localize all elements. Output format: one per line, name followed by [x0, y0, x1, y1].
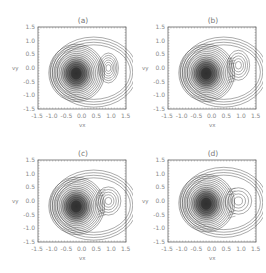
x-tick-label: -1.5 [161, 113, 173, 119]
x-axis-label: vx [79, 122, 86, 128]
x-tick-label: 1.5 [251, 246, 261, 252]
x-tick-label: 1.0 [106, 113, 116, 119]
y-tick-label: 1.5 [21, 157, 35, 163]
x-tick-label: -1.5 [161, 246, 173, 252]
y-tick-label: 0.5 [21, 51, 35, 57]
x-tick-label: -0.5 [191, 246, 203, 252]
x-tick-label: -1.0 [176, 246, 188, 252]
y-tick-label: -0.5 [21, 79, 35, 85]
y-tick-label: 1.0 [21, 171, 35, 177]
x-tick-label: 0.0 [207, 113, 217, 119]
y-tick-label: -1.0 [21, 225, 35, 231]
panel-b: (b) 1.51.00.50.0-0.5-1.0-1.5-1.5-1.0-0.5… [130, 0, 263, 136]
x-tick-label: -1.5 [31, 113, 43, 119]
x-tick-label: 1.0 [236, 113, 246, 119]
y-tick-label: 0.0 [21, 65, 35, 71]
x-tick-label: 0.0 [77, 246, 87, 252]
x-tick-label: -1.5 [31, 246, 43, 252]
y-tick-label: 1.0 [151, 171, 165, 177]
x-tick-label: 1.5 [121, 113, 131, 119]
y-tick-label: 1.5 [151, 157, 165, 163]
x-tick-label: 1.0 [106, 246, 116, 252]
x-tick-label: 0.0 [207, 246, 217, 252]
y-tick-label: 1.0 [21, 38, 35, 44]
y-tick-label: 0.0 [151, 198, 165, 204]
y-axis-label: vy [142, 198, 149, 204]
y-tick-label: 0.0 [151, 65, 165, 71]
x-tick-label: -1.0 [46, 246, 58, 252]
y-tick-label: -1.0 [21, 92, 35, 98]
x-tick-label: 0.5 [92, 246, 102, 252]
y-tick-label: 1.5 [151, 24, 165, 30]
y-tick-label: 0.0 [21, 198, 35, 204]
x-tick-label: 1.5 [121, 246, 131, 252]
x-tick-label: 0.5 [222, 113, 232, 119]
x-axis-label: vx [209, 255, 216, 261]
x-tick-label: 0.5 [222, 246, 232, 252]
x-tick-label: 1.0 [236, 246, 246, 252]
x-tick-label: 0.0 [77, 113, 87, 119]
x-tick-label: -0.5 [61, 113, 73, 119]
panel-a: (a) 1.51.00.50.0-0.5-1.0-1.5-1.5-1.0-0.5… [0, 0, 133, 136]
panel-c: (c) 1.51.00.50.0-0.5-1.0-1.5-1.5-1.0-0.5… [0, 133, 133, 269]
y-tick-label: 0.5 [151, 51, 165, 57]
y-tick-label: 0.5 [151, 184, 165, 190]
y-tick-label: -1.0 [151, 92, 165, 98]
y-tick-label: 1.5 [21, 24, 35, 30]
x-tick-label: -0.5 [61, 246, 73, 252]
panel-d: (d) 1.51.00.50.0-0.5-1.0-1.5-1.5-1.0-0.5… [130, 133, 263, 269]
y-tick-label: 1.0 [151, 38, 165, 44]
x-axis-label: vx [209, 122, 216, 128]
x-axis-label: vx [79, 255, 86, 261]
x-tick-label: 0.5 [92, 113, 102, 119]
x-tick-label: -1.0 [176, 113, 188, 119]
x-tick-label: -1.0 [46, 113, 58, 119]
y-tick-label: -1.0 [151, 225, 165, 231]
y-tick-label: -0.5 [151, 212, 165, 218]
y-axis-label: vy [142, 65, 149, 71]
y-tick-label: -0.5 [151, 79, 165, 85]
y-axis-label: vy [12, 65, 19, 71]
y-tick-label: 0.5 [21, 184, 35, 190]
x-tick-label: 1.5 [251, 113, 261, 119]
y-tick-label: -0.5 [21, 212, 35, 218]
y-axis-label: vy [12, 198, 19, 204]
x-tick-label: -0.5 [191, 113, 203, 119]
